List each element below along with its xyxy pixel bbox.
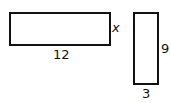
rectangle-b-height-label: 9 — [161, 42, 169, 55]
rectangle-b — [133, 12, 159, 85]
rectangle-a-height-label: x — [112, 21, 120, 34]
rectangle-a — [9, 12, 111, 46]
rectangle-a-width-label: 12 — [53, 48, 70, 61]
rectangle-b-width-label: 3 — [142, 87, 150, 100]
